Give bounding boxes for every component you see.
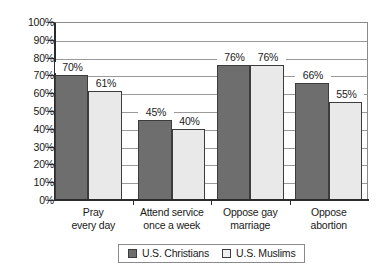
- bar: [55, 75, 89, 200]
- bar: [172, 129, 206, 200]
- category-label: Oppose gaymarriage: [211, 206, 290, 231]
- bar-chart: 0%10%20%30%40%50%60%70%80%90%100% 70%45%…: [0, 0, 385, 278]
- category-label-line: Oppose: [290, 206, 369, 219]
- bar-value-label: 45%: [138, 107, 174, 118]
- category-label-line: Pray: [54, 206, 133, 219]
- legend-item-muslims: U.S. Muslims: [222, 248, 295, 259]
- bar-value-label: 40%: [172, 116, 208, 127]
- bar: [138, 120, 172, 200]
- bar: [217, 65, 251, 200]
- category-label-line: Oppose gay: [211, 206, 290, 219]
- legend-label-muslims: U.S. Muslims: [236, 248, 295, 259]
- bars-layer: [54, 22, 368, 200]
- category-label-line: abortion: [290, 219, 369, 232]
- x-axis-tick-mark: [211, 200, 212, 205]
- legend-item-christians: U.S. Christians: [128, 248, 209, 259]
- bar: [250, 65, 284, 200]
- bar-value-label: 61%: [88, 78, 124, 89]
- bar-value-label: 66%: [295, 70, 331, 81]
- bar: [295, 83, 329, 200]
- bar: [88, 91, 122, 200]
- category-label: Prayevery day: [54, 206, 133, 231]
- category-label: Opposeabortion: [290, 206, 369, 231]
- category-label-line: marriage: [211, 219, 290, 232]
- bar-value-label: 55%: [329, 89, 365, 100]
- chart-legend: U.S. Christians U.S. Muslims: [118, 244, 305, 263]
- category-label-line: every day: [54, 219, 133, 232]
- x-axis-tick-mark: [290, 200, 291, 205]
- bar-value-label: 70%: [55, 62, 91, 73]
- bar-value-label: 76%: [250, 52, 286, 63]
- category-label-line: once a week: [133, 219, 212, 232]
- bar: [329, 102, 363, 200]
- legend-swatch-icon-muslims: [222, 249, 231, 258]
- category-label-line: Attend service: [133, 206, 212, 219]
- category-label: Attend serviceonce a week: [133, 206, 212, 231]
- legend-label-christians: U.S. Christians: [142, 248, 209, 259]
- bar-value-label: 76%: [217, 52, 253, 63]
- y-axis: 0%10%20%30%40%50%60%70%80%90%100%: [0, 22, 54, 200]
- x-axis-tick-mark: [133, 200, 134, 205]
- legend-swatch-icon-christians: [128, 249, 137, 258]
